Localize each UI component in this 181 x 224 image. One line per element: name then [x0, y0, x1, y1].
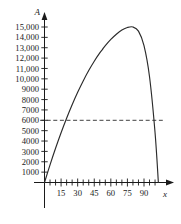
y-tick-label-10000: 10,000 [15, 74, 39, 84]
chart-canvas: A x 100020003000400050006000700080009000… [0, 0, 181, 224]
x-tick-label-75: 75 [123, 188, 132, 198]
y-tick-label-2000: 2000 [22, 157, 39, 167]
y-tick-label-4000: 4000 [22, 136, 39, 146]
y-tick-label-6000: 6000 [22, 115, 39, 125]
y-tick-label-8000: 8000 [22, 95, 39, 105]
x-axis-ticks-group: 153045607590 [50, 179, 155, 199]
x-tick-label-45: 45 [90, 188, 99, 198]
x-tick-label-60: 60 [107, 188, 116, 198]
y-tick-label-11000: 11,000 [16, 64, 39, 74]
x-axis-title: x [162, 189, 167, 199]
y-tick-label-1000: 1000 [22, 167, 39, 177]
y-axis-title: A [34, 7, 41, 17]
x-tick-label-90: 90 [140, 188, 149, 198]
y-axis-ticks-group: 10002000300040005000600070008000900010,0… [15, 22, 47, 177]
area-curve [45, 27, 159, 183]
y-tick-label-12000: 12,000 [15, 53, 39, 63]
y-axis-arrow-icon [42, 12, 48, 20]
y-tick-label-3000: 3000 [22, 147, 39, 157]
y-tick-label-13000: 13,000 [15, 43, 39, 53]
x-tick-label-15: 15 [57, 188, 66, 198]
x-tick-label-30: 30 [73, 188, 82, 198]
y-tick-label-9000: 9000 [22, 84, 39, 94]
y-tick-label-7000: 7000 [22, 105, 39, 115]
x-axis-arrow-icon [166, 180, 174, 186]
area-function-figure: A x 100020003000400050006000700080009000… [0, 0, 181, 224]
y-tick-label-14000: 14,000 [15, 32, 39, 42]
y-tick-label-15000: 15,000 [15, 22, 39, 32]
y-tick-label-5000: 5000 [22, 126, 39, 136]
